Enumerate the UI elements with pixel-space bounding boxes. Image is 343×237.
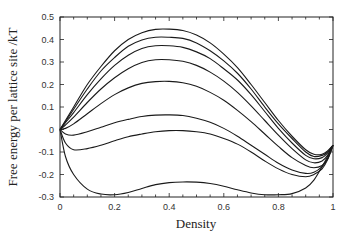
y-tick-label: 0 — [49, 125, 54, 135]
y-tick-label: -0.3 — [38, 192, 54, 202]
series-curve-2 — [60, 37, 333, 157]
y-tick-label: 0.1 — [41, 102, 54, 112]
y-tick-label: -0.2 — [38, 170, 54, 180]
series-curve-8 — [60, 130, 333, 195]
line-chart: 00.20.40.60.81 -0.3-0.2-0.100.10.20.30.4… — [0, 0, 343, 237]
y-tick-label: 0.5 — [41, 12, 54, 22]
y-tick-label: -0.1 — [38, 147, 54, 157]
series-curve-6 — [60, 115, 333, 174]
y-axis-title: Free energy per lattice site /kT — [5, 27, 20, 186]
curves — [60, 29, 333, 195]
x-tick-label: 0 — [57, 202, 62, 212]
x-tick-labels: 00.20.40.60.81 — [57, 202, 335, 212]
series-curve-3 — [60, 46, 333, 159]
series-curve-4 — [60, 59, 333, 162]
y-tick-label: 0.4 — [41, 35, 54, 45]
x-tick-label: 0.6 — [218, 202, 231, 212]
x-tick-label: 1 — [330, 202, 335, 212]
y-tick-label: 0.2 — [41, 80, 54, 90]
x-axis-title: Density — [176, 216, 217, 231]
series-curve-1 — [60, 29, 333, 155]
x-tick-label: 0.2 — [108, 202, 121, 212]
series-curve-5 — [60, 81, 333, 168]
y-tick-label: 0.3 — [41, 57, 54, 67]
x-tick-label: 0.4 — [163, 202, 176, 212]
y-tick-labels: -0.3-0.2-0.100.10.20.30.40.5 — [38, 12, 54, 202]
x-tick-label: 0.8 — [272, 202, 285, 212]
